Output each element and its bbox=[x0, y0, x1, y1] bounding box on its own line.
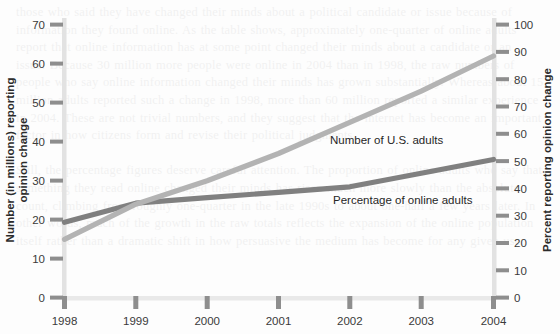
left-axis-title: Number (in millions) reporting opinion c… bbox=[4, 78, 29, 243]
left-axis: 0 10 20 30 40 50 60 70 Number (in millio… bbox=[4, 18, 67, 304]
left-tick-50 bbox=[50, 101, 63, 105]
x-tick-label-2003: 2003 bbox=[408, 315, 434, 327]
right-tick-label-30: 30 bbox=[514, 210, 527, 222]
right-tick-50 bbox=[496, 159, 509, 163]
left-axis-ticks bbox=[50, 23, 63, 300]
x-tick-label-1999: 1999 bbox=[123, 315, 149, 327]
right-tick-10 bbox=[496, 268, 509, 272]
left-tick-label-60: 60 bbox=[32, 58, 45, 70]
left-tick-label-20: 20 bbox=[32, 214, 45, 226]
left-tick-20 bbox=[50, 218, 63, 222]
left-tick-label-50: 50 bbox=[32, 97, 45, 109]
x-axis: 1998 1999 2000 2001 2002 2003 2004 bbox=[52, 296, 507, 327]
series-label-percentage-of-online-adults: Percentage of online adults bbox=[333, 194, 473, 206]
dual-axis-line-chart: 0 10 20 30 40 50 60 70 Number (in millio… bbox=[0, 0, 560, 334]
right-tick-label-40: 40 bbox=[514, 183, 527, 195]
x-tick-label-1998: 1998 bbox=[52, 315, 78, 327]
left-tick-10 bbox=[50, 257, 63, 261]
left-tick-60 bbox=[50, 62, 63, 66]
right-axis-ticks bbox=[496, 23, 509, 300]
x-tick-1999 bbox=[133, 296, 138, 309]
left-tick-label-40: 40 bbox=[32, 136, 45, 148]
right-tick-40 bbox=[496, 186, 509, 190]
series-line-percentage-of-online-adults bbox=[65, 160, 494, 223]
x-tick-2000 bbox=[205, 296, 210, 309]
left-tick-label-70: 70 bbox=[32, 19, 45, 31]
x-tick-2004 bbox=[491, 296, 496, 309]
right-axis: 0 10 20 30 40 50 60 70 80 90 100 Percent… bbox=[492, 18, 553, 304]
chart-background bbox=[0, 0, 560, 334]
right-tick-90 bbox=[496, 50, 509, 54]
figure-container: those who said they have changed their m… bbox=[0, 0, 560, 334]
right-tick-label-70: 70 bbox=[514, 101, 527, 113]
left-axis-title-line2: opinion change bbox=[17, 118, 29, 203]
right-tick-80 bbox=[496, 77, 509, 81]
right-tick-30 bbox=[496, 214, 509, 218]
right-tick-label-90: 90 bbox=[514, 46, 527, 58]
x-tick-label-2002: 2002 bbox=[337, 315, 363, 327]
x-tick-2003 bbox=[419, 296, 424, 309]
right-axis-title: Percent reporting opinion change bbox=[541, 68, 553, 252]
right-tick-label-60: 60 bbox=[514, 128, 527, 140]
left-tick-30 bbox=[50, 179, 63, 183]
left-tick-0 bbox=[50, 296, 63, 300]
x-tick-label-2001: 2001 bbox=[266, 315, 292, 327]
right-tick-label-80: 80 bbox=[514, 74, 527, 86]
x-tick-label-2000: 2000 bbox=[194, 315, 220, 327]
right-tick-label-0: 0 bbox=[514, 292, 520, 304]
right-axis-title-text: Percent reporting opinion change bbox=[541, 68, 553, 252]
left-tick-label-30: 30 bbox=[32, 175, 45, 187]
right-tick-label-50: 50 bbox=[514, 156, 527, 168]
right-tick-100 bbox=[496, 23, 509, 27]
right-tick-0 bbox=[496, 296, 509, 300]
right-tick-label-20: 20 bbox=[514, 237, 527, 249]
right-tick-70 bbox=[496, 105, 509, 109]
left-tick-label-10: 10 bbox=[32, 253, 45, 265]
x-tick-2002 bbox=[347, 296, 352, 309]
left-tick-70 bbox=[50, 23, 63, 27]
series-line-number-of-us-adults bbox=[65, 56, 494, 239]
series-label-number-of-us-adults: Number of U.S. adults bbox=[330, 134, 443, 146]
x-tick-2001 bbox=[276, 296, 281, 309]
x-tick-label-2004: 2004 bbox=[481, 315, 507, 327]
right-tick-60 bbox=[496, 132, 509, 136]
right-tick-label-100: 100 bbox=[514, 19, 533, 31]
x-tick-1998 bbox=[62, 296, 67, 309]
left-tick-40 bbox=[50, 140, 63, 144]
right-tick-label-10: 10 bbox=[514, 265, 527, 277]
left-axis-title-line1: Number (in millions) reporting bbox=[4, 78, 16, 243]
right-tick-20 bbox=[496, 241, 509, 245]
left-tick-label-0: 0 bbox=[39, 292, 45, 304]
